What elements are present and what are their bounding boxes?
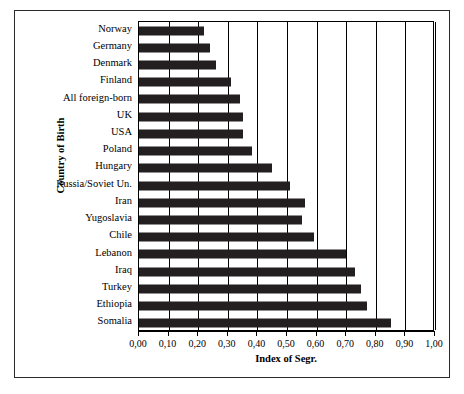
x-axis-label-0-10: 0,10 [159, 338, 177, 349]
bar-row [139, 280, 433, 297]
y-axis-label-usa: USA [111, 127, 132, 138]
y-axis-label-finland: Finland [100, 75, 132, 86]
y-axis-label-denmark: Denmark [93, 58, 132, 69]
y-axis-label-iran: Iran [115, 196, 132, 207]
chart-container: Country of Birth NorwayGermanyDenmarkFin… [0, 0, 464, 394]
bar-row [139, 125, 433, 142]
x-axis-tick [227, 331, 228, 336]
x-axis-label-0-60: 0,60 [307, 338, 325, 349]
y-axis-label-germany: Germany [93, 41, 132, 52]
bar-row [139, 22, 433, 39]
bar-norway [139, 26, 204, 35]
bar-row [139, 194, 433, 211]
x-axis-label-0-30: 0,30 [218, 338, 236, 349]
bar-russia-soviet-un [139, 181, 290, 190]
plot-area [138, 21, 434, 331]
y-axis-label-turkey: Turkey [102, 282, 132, 293]
bar-poland [139, 147, 252, 156]
x-axis-tick [138, 331, 139, 336]
y-axis-label-russia-soviet-un: Russia/Soviet Un. [56, 179, 132, 190]
y-axis-label-hungary: Hungary [95, 161, 132, 172]
x-axis-label-0-40: 0,40 [248, 338, 266, 349]
x-axis-label-0-20: 0,20 [188, 338, 206, 349]
bar-row [139, 160, 433, 177]
x-axis-label-0-80: 0,80 [366, 338, 384, 349]
x-axis-tick [197, 331, 198, 336]
bar-row [139, 39, 433, 56]
x-axis-label-0-50: 0,50 [277, 338, 295, 349]
bar-row [139, 91, 433, 108]
bar-all-foreign-born [139, 95, 240, 104]
y-axis-label-poland: Poland [103, 144, 132, 155]
y-axis-label-uk: UK [117, 110, 132, 121]
bar-hungary [139, 164, 272, 173]
bar-iraq [139, 267, 355, 276]
y-axis-label-chile: Chile [109, 230, 132, 241]
bar-usa [139, 129, 243, 138]
x-axis-label-0-00: 0,00 [129, 338, 147, 349]
bar-row [139, 246, 433, 263]
bar-row [139, 56, 433, 73]
bar-chile [139, 233, 314, 242]
gridline-1-00 [435, 22, 436, 330]
x-axis-label-0-70: 0,70 [336, 338, 354, 349]
bar-row [139, 108, 433, 125]
bar-finland [139, 78, 231, 87]
x-axis-tick [256, 331, 257, 336]
bar-row [139, 177, 433, 194]
bar-yugoslavia [139, 216, 302, 225]
bar-lebanon [139, 250, 346, 259]
y-axis-label-ethiopia: Ethiopia [96, 299, 132, 310]
bar-row [139, 229, 433, 246]
bar-uk [139, 112, 243, 121]
x-axis-tick [168, 331, 169, 336]
y-axis-label-yugoslavia: Yugoslavia [85, 213, 132, 224]
x-axis-tick [286, 331, 287, 336]
y-axis-label-somalia: Somalia [98, 316, 132, 327]
bar-series [139, 22, 433, 330]
bar-iran [139, 198, 305, 207]
y-axis-label-iraq: Iraq [115, 265, 132, 276]
y-axis-label-lebanon: Lebanon [95, 248, 132, 259]
bar-ethiopia [139, 302, 367, 311]
x-axis-label-1-00: 1,00 [425, 338, 443, 349]
bar-row [139, 315, 433, 332]
x-axis-label-0-90: 0,90 [396, 338, 414, 349]
bar-row [139, 263, 433, 280]
x-axis-tick [375, 331, 376, 336]
x-axis-title: Index of Segr. [138, 353, 434, 364]
bar-row [139, 74, 433, 91]
y-axis-labels: NorwayGermanyDenmarkFinlandAll foreign-b… [14, 21, 138, 331]
x-axis-tick [345, 331, 346, 336]
x-axis-tick [404, 331, 405, 336]
y-axis-label-norway: Norway [98, 24, 132, 35]
bar-row [139, 298, 433, 315]
y-axis-label-all-foreign-born: All foreign-born [63, 93, 132, 104]
bar-row [139, 143, 433, 160]
x-axis-tick [434, 331, 435, 336]
x-axis-line [138, 331, 434, 332]
bar-row [139, 211, 433, 228]
bar-turkey [139, 284, 361, 293]
x-axis-tick-labels: 0,000,100,200,300,400,500,600,700,800,90… [0, 338, 464, 352]
bar-denmark [139, 61, 216, 70]
bar-somalia [139, 319, 391, 328]
x-axis-tick [316, 331, 317, 336]
bar-germany [139, 43, 210, 52]
